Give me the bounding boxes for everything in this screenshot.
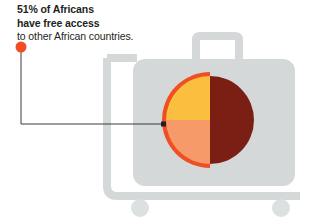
suitcase-wheel-right (272, 199, 290, 217)
suitcase-grab-handle-icon (196, 36, 239, 62)
callout-line-3: to other African countries. (17, 30, 197, 44)
callout-line-2: have free access (17, 17, 197, 31)
callout-arrow-marker (161, 122, 166, 127)
infographic-root: 51% of Africans have free access to othe… (0, 0, 312, 221)
callout-text-block: 51% of Africans have free access to othe… (17, 3, 197, 44)
callout-line-1: 51% of Africans (17, 3, 197, 17)
suitcase-wheel-left (131, 199, 149, 217)
